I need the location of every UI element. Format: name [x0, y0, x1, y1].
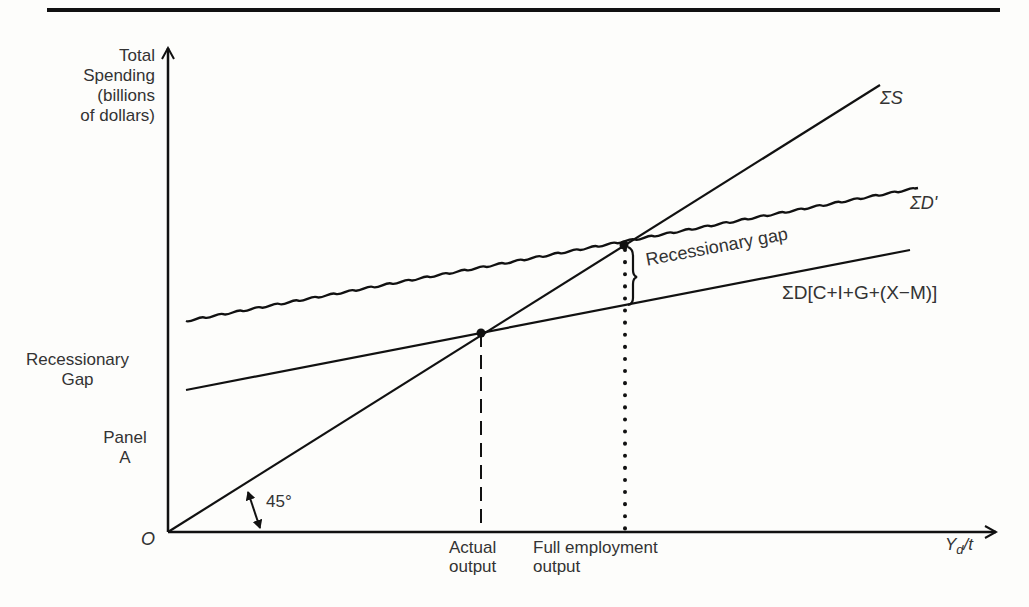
curve-label-text: ΣD[C+I+G+(X−M)]	[782, 282, 937, 303]
full-employment-output-label: Full employment output	[533, 538, 658, 576]
label-line: output	[533, 557, 658, 576]
full-employment-equilibrium-point	[620, 241, 629, 250]
x-axis-label: Yd/t	[945, 535, 973, 560]
label-line: Actual	[449, 538, 496, 557]
aggregate-demand-prime-label: ΣD'	[910, 193, 937, 213]
x-axis-label-main: Y	[945, 535, 956, 554]
actual-equilibrium-point	[477, 329, 486, 338]
label-line: Gap	[0, 370, 155, 390]
y-axis-label-line: Spending	[40, 66, 155, 86]
label-line: Recessionary	[0, 350, 155, 370]
recessionary-gap-brace	[628, 247, 637, 305]
y-axis-label-line: of dollars)	[40, 106, 155, 126]
panel-label: Panel A	[95, 428, 155, 468]
x-axis-label-sub: d	[956, 542, 963, 557]
aggregate-demand-line	[186, 250, 910, 390]
label-line: Panel	[95, 428, 155, 448]
x-axis-label-tail: /t	[964, 535, 973, 554]
aggregate-supply-label: ΣS	[880, 88, 903, 108]
label-line: output	[449, 557, 496, 576]
y-axis-label: Total Spending (billions of dollars)	[40, 46, 155, 126]
y-axis-label-line: (billions	[40, 86, 155, 106]
curve-label-text: ΣD'	[910, 193, 937, 213]
y-axis-label-line: Total	[40, 46, 155, 66]
curve-label-text: ΣS	[880, 88, 903, 108]
aggregate-demand-label: ΣD[C+I+G+(X−M)]	[782, 283, 937, 303]
label-line: Full employment	[533, 538, 658, 557]
actual-output-label: Actual output	[449, 538, 496, 576]
angle-label: 45°	[266, 492, 292, 512]
origin-label: O	[141, 529, 155, 549]
label-line: A	[95, 448, 155, 468]
recessionary-gap-side-label: Recessionary Gap	[0, 350, 155, 390]
aggregate-supply-line	[168, 85, 880, 532]
angle-45-arrow-icon	[248, 492, 260, 528]
aggregate-demand-supply-diagram: Total Spending (billions of dollars) Rec…	[0, 0, 1029, 607]
